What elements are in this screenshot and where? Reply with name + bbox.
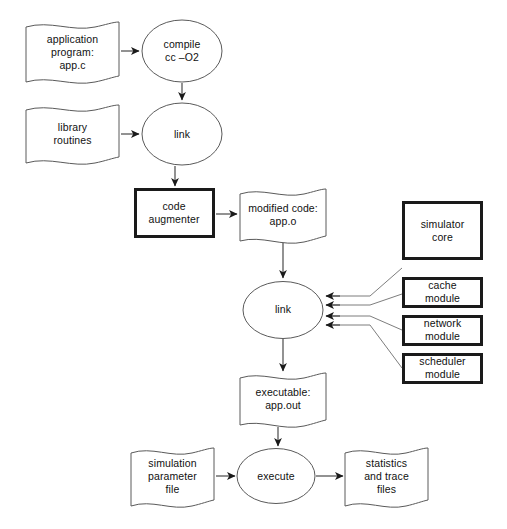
node-shape-code-augmenter [136,190,214,237]
node-shape-network-module [404,317,482,345]
node-shape-link-1 [142,103,222,165]
node-shape-sim-param-file [131,448,214,507]
node-shape-modified-code [240,189,326,243]
node-shape-link-2 [243,282,323,339]
edge-network-module-to-link-2 [326,316,402,330]
edge-scheduler-module-to-link-2 [326,325,402,368]
node-shape-library-routines [26,105,119,164]
node-shape-stats-trace [345,448,428,507]
diagram-canvas [0,0,507,529]
node-shape-app-source [26,22,119,83]
node-shape-compile [142,20,222,82]
node-shape-execute [237,449,315,504]
node-shape-scheduler-module [404,355,482,383]
flowchart-diagram: application program: app.c compile cc –O… [0,0,507,529]
edge-simulator-core-to-link-2 [326,268,402,296]
node-shape-cache-module [404,279,482,307]
node-shape-simulator-core [404,203,482,259]
node-shape-executable [240,373,326,427]
